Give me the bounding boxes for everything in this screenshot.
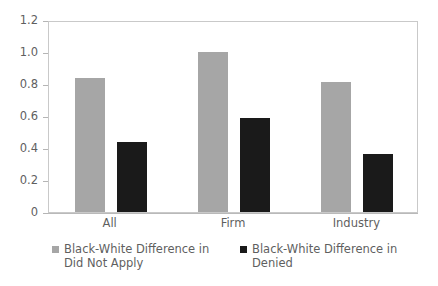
x-axis-tick-label: Firm (183, 217, 283, 230)
y-axis-tick (43, 53, 48, 54)
y-axis-tick-label: 0 (0, 207, 38, 219)
y-axis-tick-label: 0.4 (0, 143, 38, 155)
y-axis-line (48, 21, 49, 214)
chart-legend: Black-White Difference in Did Not Apply … (0, 242, 438, 286)
legend-item: Black-White Difference in Denied (240, 242, 415, 270)
bars-layer (49, 22, 417, 212)
plot-area (48, 21, 418, 213)
y-axis-tick (43, 85, 48, 86)
y-axis-tick (43, 181, 48, 182)
x-axis-tick-label: All (60, 217, 160, 230)
y-axis-tick-label: 1.2 (0, 15, 38, 27)
x-axis-tick-label: Industry (306, 217, 406, 230)
legend-swatch-icon (240, 246, 247, 253)
legend-label: Black-White Difference in Did Not Apply (64, 242, 227, 270)
y-axis-tick (43, 117, 48, 118)
y-axis-tick (43, 149, 48, 150)
legend-label: Black-White Difference in Denied (252, 242, 415, 270)
y-axis-tick-label: 1.0 (0, 47, 38, 59)
y-axis-tick (43, 21, 48, 22)
x-axis-line (48, 213, 418, 214)
legend-item: Black-White Difference in Did Not Apply (52, 242, 227, 270)
legend-swatch-icon (52, 246, 59, 253)
y-axis-tick-label: 0.6 (0, 111, 38, 123)
bar (321, 82, 351, 212)
bar-chart: 00.20.40.60.81.01.2 AllFirmIndustry Blac… (0, 0, 438, 286)
y-axis-tick-label: 0.8 (0, 79, 38, 91)
bar (363, 154, 393, 212)
bar (240, 118, 270, 212)
bar (75, 78, 105, 212)
bar (198, 52, 228, 212)
y-axis-tick-label: 0.2 (0, 175, 38, 187)
bar (117, 142, 147, 212)
